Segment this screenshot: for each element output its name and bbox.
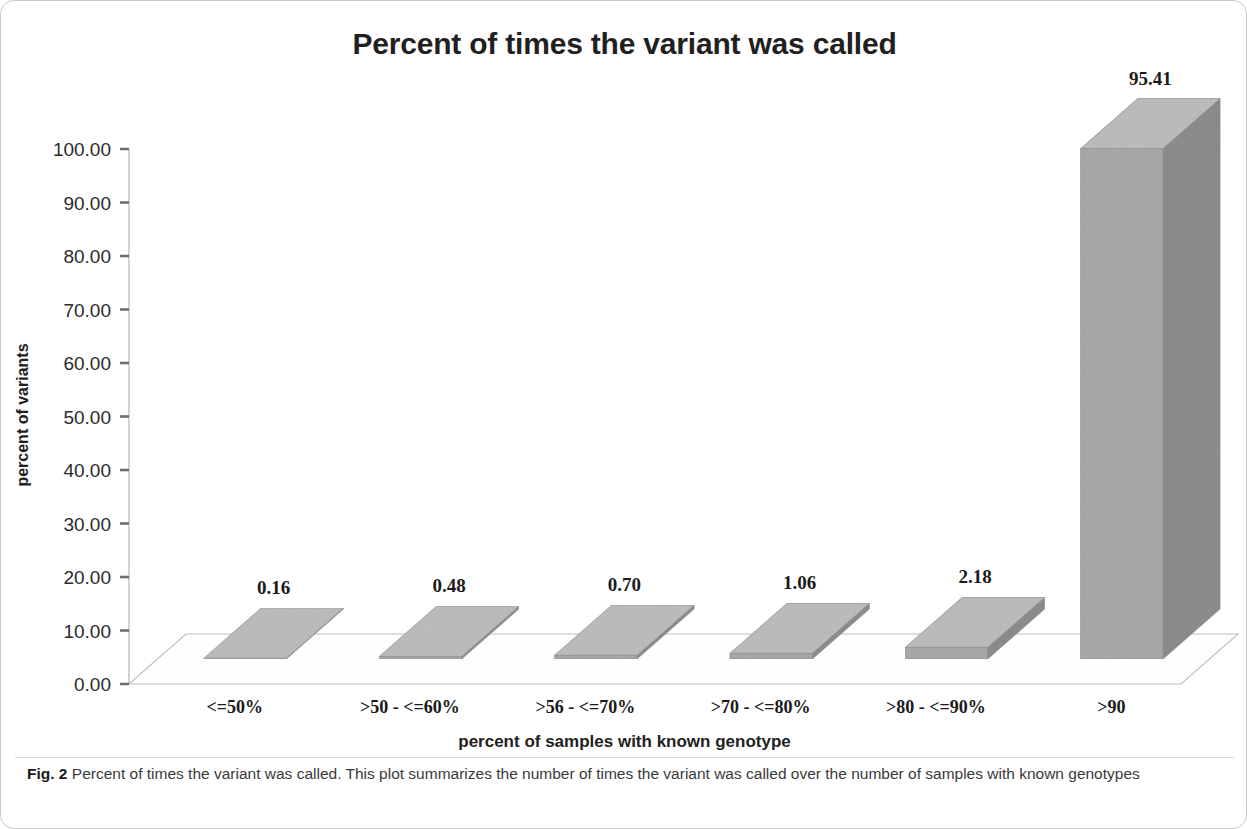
x-category-label-2: >56 - <=70% [535,697,635,717]
x-category-label-0: <=50% [206,697,263,717]
bar-value-label-4: 2.18 [958,566,991,587]
x-category-label-4: >80 - <=90% [886,697,986,717]
bar-chart-svg: 0.00 10.00 20.00 30.00 40.00 50.00 60.00… [1,1,1247,759]
bar-front-face-2 [555,655,637,659]
bar-value-labels: 0.160.480.701.062.1895.41 [257,68,1172,599]
y-tick-label-90: 90.00 [63,193,111,214]
x-category-label-1: >50 - <=60% [360,697,460,717]
x-category-label-3: >70 - <=80% [711,697,811,717]
bar-value-label-2: 0.70 [608,574,641,595]
chart-plot-area: Percent of times the variant was called … [1,1,1247,759]
y-tick-label-70: 70.00 [63,300,111,321]
y-tick-label-100: 100.00 [53,139,111,160]
bar-value-label-1: 0.48 [432,575,465,596]
x-axis-title: percent of samples with known genotype [1,732,1247,752]
bar-front-face-4 [905,647,987,659]
y-axis-ticks [120,149,129,684]
bar-front-face-5 [1081,149,1163,659]
y-tick-label-30: 30.00 [63,514,111,535]
figure-container: Percent of times the variant was called … [0,0,1247,829]
y-tick-label-80: 80.00 [63,246,111,267]
bars-group [204,99,1220,659]
y-tick-label-60: 60.00 [63,353,111,374]
bar-side-face-5 [1163,99,1220,659]
bar-value-label-0: 0.16 [257,577,290,598]
bar-front-face-3 [730,653,812,659]
figure-caption: Fig. 2 Percent of times the variant was … [27,763,1223,785]
y-tick-label-10: 10.00 [63,621,111,642]
y-axis-tick-labels: 0.00 10.00 20.00 30.00 40.00 50.00 60.00… [53,139,111,695]
y-tick-label-0: 0.00 [74,674,111,695]
y-tick-label-50: 50.00 [63,407,111,428]
bar-value-label-3: 1.06 [783,572,816,593]
bar-5[interactable] [1081,99,1220,659]
bar-value-label-5: 95.41 [1129,68,1172,89]
y-tick-label-20: 20.00 [63,567,111,588]
caption-divider [15,757,1234,758]
y-tick-label-40: 40.00 [63,460,111,481]
x-axis-category-labels: <=50%>50 - <=60%>56 - <=70%>70 - <=80%>8… [206,697,1125,717]
figure-number: Fig. 2 [27,765,67,782]
figure-caption-text: Percent of times the variant was called.… [72,765,1140,782]
bar-front-face-1 [379,656,461,659]
x-category-label-5: >90 [1097,697,1125,717]
